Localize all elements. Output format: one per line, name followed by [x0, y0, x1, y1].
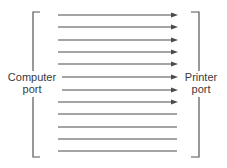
printer-label-line2: port [178, 83, 224, 95]
right-bracket [191, 12, 199, 71]
arrowhead-icon [171, 25, 178, 30]
arrowhead-icon [171, 100, 178, 105]
printer-label-line1: Printer [178, 71, 224, 83]
left-bracket [33, 12, 40, 71]
computer-port-label: Computer port [2, 71, 62, 95]
arrowhead-icon [171, 75, 178, 80]
arrowhead-icon [171, 62, 178, 67]
printer-port-label: Printer port [178, 71, 224, 95]
computer-label-line1: Computer [2, 71, 62, 83]
right-bracket-lower [191, 97, 199, 157]
arrowhead-icon [171, 38, 178, 43]
left-bracket-lower [33, 97, 40, 157]
computer-label-line2: port [2, 83, 62, 95]
arrowhead-icon [171, 50, 178, 55]
arrowhead-icon [171, 13, 178, 18]
arrowhead-icon [171, 88, 178, 93]
